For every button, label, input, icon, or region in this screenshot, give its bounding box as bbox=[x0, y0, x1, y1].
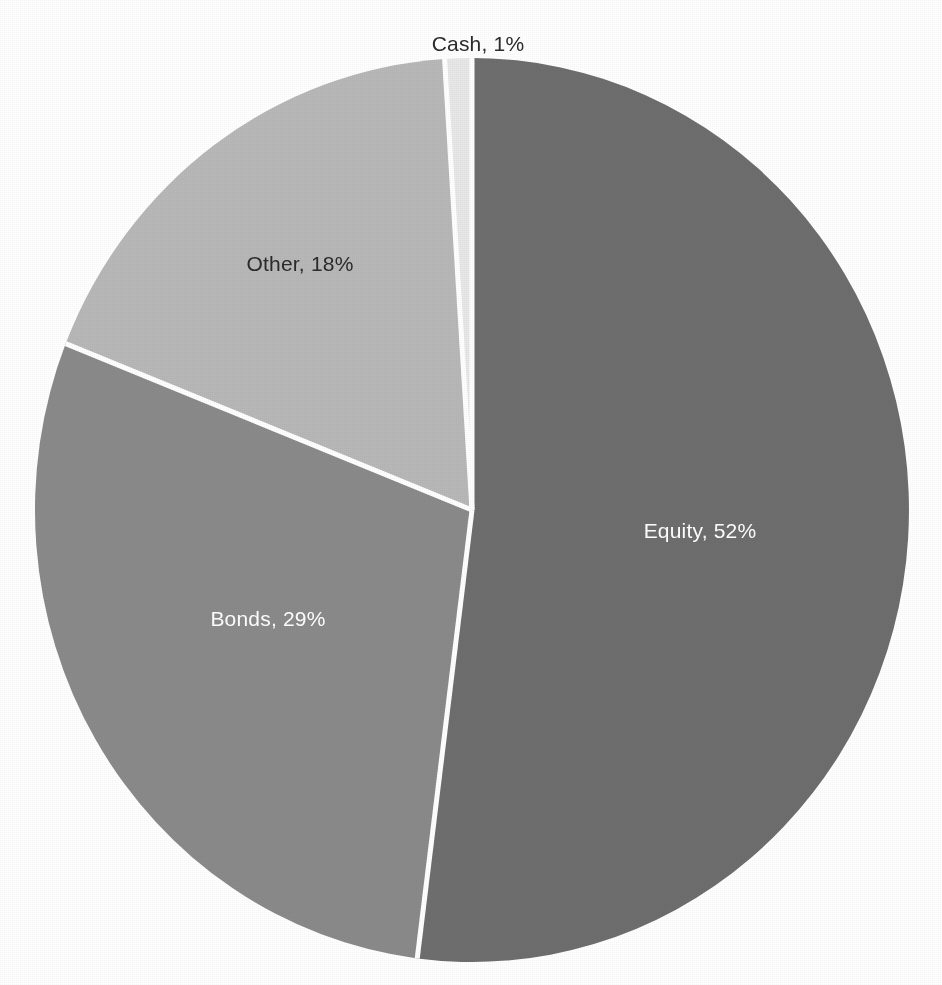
pie-label-bonds: Bonds, 29% bbox=[210, 607, 325, 630]
pie-label-other: Other, 18% bbox=[246, 252, 353, 275]
pie-label-outside-cash: Cash, 1% bbox=[432, 32, 525, 55]
pie-label-equity: Equity, 52% bbox=[644, 519, 757, 542]
pie-chart-canvas: Equity, 52%Bonds, 29%Other, 18%Cash, 1% bbox=[0, 0, 942, 985]
pie-chart: Equity, 52%Bonds, 29%Other, 18%Cash, 1% bbox=[0, 0, 942, 985]
